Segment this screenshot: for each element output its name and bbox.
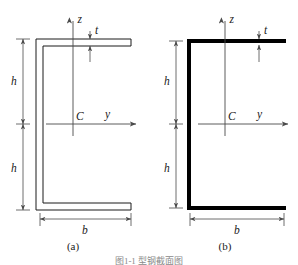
panel-sub-label-b: (b)	[219, 240, 232, 253]
height-lower-label-b: h	[164, 162, 170, 174]
panel-sub-label-a: (a)	[67, 240, 80, 253]
figure-canvas: z y C t h h b (a)	[0, 0, 298, 265]
centroid-label-a: C	[76, 110, 84, 122]
height-upper-label-b: h	[164, 75, 170, 87]
axis-z-label-b: z	[229, 13, 235, 25]
axis-y-label-a: y	[104, 108, 111, 121]
axis-y-label-b: y	[256, 108, 263, 121]
centroid-label-b: C	[228, 110, 236, 122]
height-lower-label-a: h	[11, 162, 17, 174]
width-label-b: b	[234, 224, 240, 236]
channel-section-figure: z y C t h h b (a)	[0, 0, 298, 265]
axis-z-label-a: z	[77, 13, 83, 25]
height-upper-label-a: h	[11, 75, 17, 87]
width-label-a: b	[82, 224, 88, 236]
figure-caption: 图1-1 型钢截面图	[115, 255, 183, 265]
